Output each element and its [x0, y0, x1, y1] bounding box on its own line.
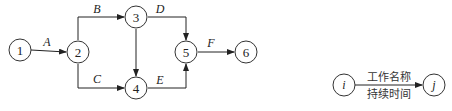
edge-f: F: [198, 36, 234, 52]
node-4: 4: [125, 77, 147, 99]
svg-text:2: 2: [75, 45, 82, 60]
svg-text:6: 6: [243, 45, 250, 60]
legend-node-i: i: [333, 74, 355, 96]
legend-activity-name: 工作名称: [367, 70, 411, 84]
svg-text:i: i: [342, 78, 345, 92]
node-2: 2: [67, 41, 89, 63]
legend-duration: 持续时间: [367, 87, 411, 101]
edge-label-e: E: [155, 73, 164, 87]
svg-text:1: 1: [17, 43, 24, 58]
edge-d: D: [148, 2, 186, 40]
edge-label-f: F: [206, 36, 215, 50]
node-1: 1: [9, 39, 31, 61]
network-diagram: A B C D E F 1 2 3 4 5: [0, 0, 452, 111]
node-5: 5: [175, 41, 197, 63]
node-6: 6: [235, 41, 257, 63]
edge-a: A: [31, 35, 66, 52]
node-3: 3: [125, 6, 147, 28]
edge-c: C: [78, 64, 124, 88]
svg-text:5: 5: [183, 45, 190, 60]
edge-label-d: D: [155, 2, 165, 16]
edge-label-a: A: [42, 35, 51, 49]
edge-b: B: [78, 2, 124, 40]
svg-text:4: 4: [133, 81, 140, 96]
legend: i j 工作名称 持续时间: [333, 70, 445, 101]
edge-e: E: [148, 64, 186, 88]
edge-label-c: C: [93, 72, 102, 86]
edge-label-b: B: [93, 2, 101, 16]
legend-node-j: j: [423, 74, 445, 96]
svg-text:3: 3: [133, 10, 140, 25]
